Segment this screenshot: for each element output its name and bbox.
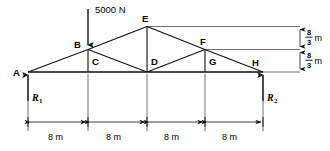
node-label-c: C <box>92 56 99 67</box>
node-label-e: E <box>142 13 148 24</box>
node-label-a: A <box>13 67 20 78</box>
horizontal-dim-label-4: 8 m <box>222 132 237 142</box>
horizontal-dim-label-1: 8 m <box>48 132 63 142</box>
truss-diagram: A B C D E F G H 5000 N R1 R2 8 3 m 8 3 <box>0 0 330 151</box>
fraction-numerator-lower: 8 <box>307 51 311 60</box>
horizontal-dim-label-2: 8 m <box>106 132 121 142</box>
horizontal-dim-label-3: 8 m <box>164 132 179 142</box>
member-b-e <box>88 27 147 50</box>
load-label-5000n: 5000 N <box>95 4 126 15</box>
vertical-dim-label-upper: 8 3 m <box>306 28 323 47</box>
fraction-unit-upper: m <box>315 33 323 43</box>
node-label-f: F <box>200 36 206 47</box>
fraction-unit-lower: m <box>315 56 323 66</box>
vertical-dim-label-lower: 8 3 m <box>306 51 323 70</box>
fraction-numerator-upper: 8 <box>307 28 311 37</box>
member-e-f <box>147 27 205 50</box>
fraction-denominator-lower: 3 <box>307 61 311 70</box>
node-label-d: D <box>151 56 158 67</box>
node-label-b: B <box>74 39 81 50</box>
reaction-label-r1: R1 <box>31 92 43 105</box>
node-label-h: H <box>252 57 259 68</box>
member-a-b <box>28 50 88 73</box>
node-label-g: G <box>209 56 216 67</box>
reaction-label-r2: R2 <box>266 92 278 105</box>
fraction-denominator-upper: 3 <box>307 38 311 47</box>
truss-svg: A B C D E F G H 5000 N R1 R2 8 3 m 8 3 <box>0 0 330 151</box>
